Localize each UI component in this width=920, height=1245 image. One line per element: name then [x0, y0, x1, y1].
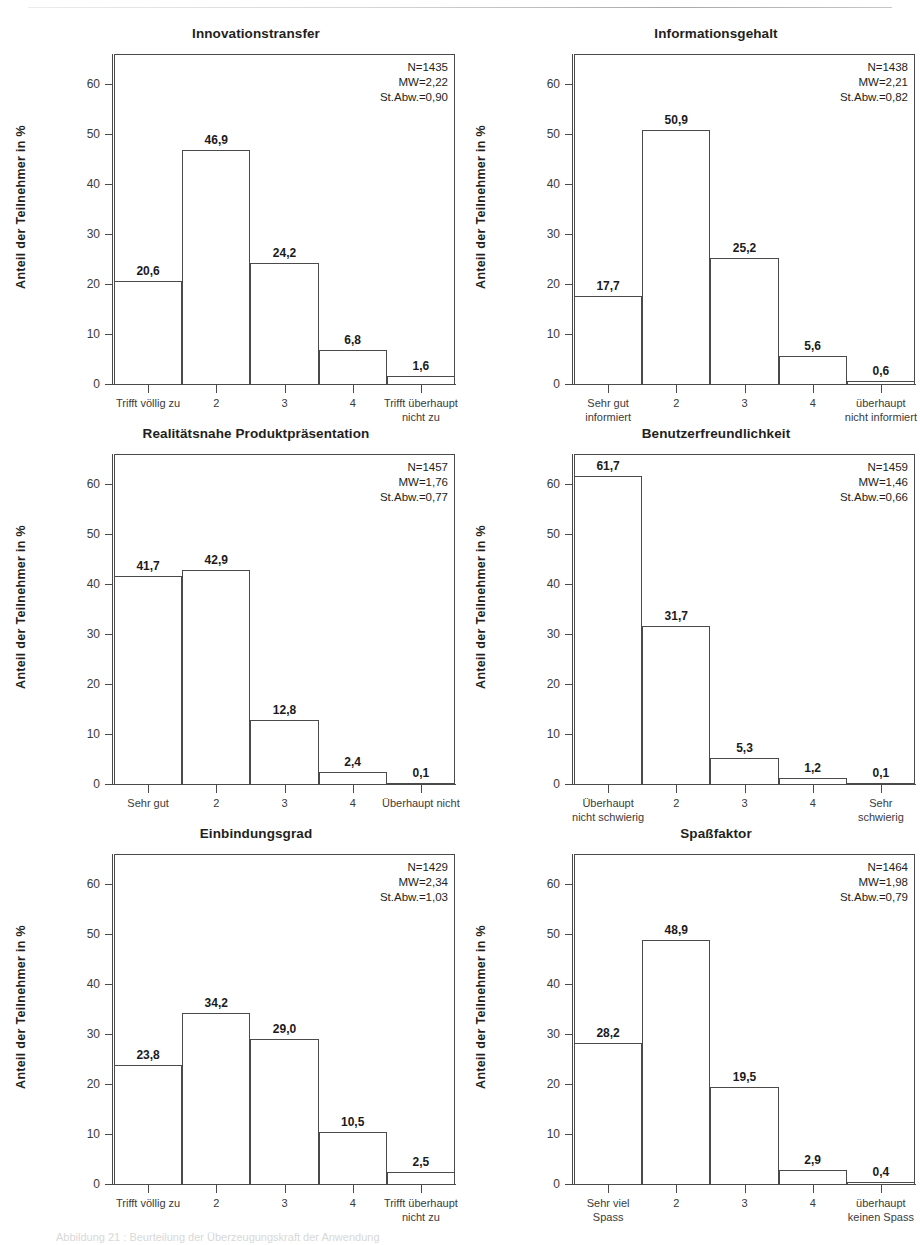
x-axis-tick: [353, 385, 354, 393]
y-axis-tick-label: 30: [526, 1027, 560, 1041]
y-axis-tick: [565, 634, 573, 635]
y-axis-tick: [105, 84, 113, 85]
bar-value-label: 1,2: [779, 761, 847, 775]
x-axis-category-line: Trifft überhaupt: [371, 1197, 471, 1211]
y-axis-tick-label: 40: [66, 177, 100, 191]
x-axis-category-line: Sehr: [831, 797, 920, 811]
bar: [182, 570, 250, 785]
x-axis-ticks: [114, 1185, 455, 1194]
y-axis-tick: [565, 484, 573, 485]
x-axis-category-line: nicht zu: [371, 1211, 471, 1225]
bar-value-label: 23,8: [114, 1048, 182, 1062]
bar: [574, 1043, 642, 1184]
bar: [847, 1182, 915, 1184]
bar: [387, 783, 455, 784]
y-axis-tick: [105, 634, 113, 635]
bar: [319, 1132, 387, 1185]
x-axis-category-line: Überhaupt nicht: [371, 797, 471, 811]
chart-title: Benutzerfreundlichkeit: [460, 426, 920, 441]
y-axis-tick-label: 60: [526, 77, 560, 91]
x-axis-tick: [353, 1185, 354, 1193]
bar: [250, 1039, 318, 1184]
bar: [847, 381, 915, 384]
y-axis-tick: [105, 534, 113, 535]
x-axis-tick: [745, 1185, 746, 1193]
bar-value-label: 2,4: [319, 755, 387, 769]
bar: [710, 258, 778, 384]
y-axis-tick: [565, 284, 573, 285]
x-axis-category-line: Spass: [558, 1211, 658, 1225]
bar-value-label: 5,6: [779, 339, 847, 353]
bar-value-label: 28,2: [574, 1026, 642, 1040]
x-axis-tick: [676, 1185, 677, 1193]
y-axis-tick-label: 60: [526, 477, 560, 491]
y-axis-tick: [565, 884, 573, 885]
chart-grid: InnovationstransferAnteil der Teilnehmer…: [0, 22, 920, 1222]
x-axis-tick: [813, 1185, 814, 1193]
x-axis-tick: [676, 785, 677, 793]
y-axis-tick: [105, 234, 113, 235]
bar: [319, 350, 387, 384]
bar-value-label: 50,9: [642, 113, 710, 127]
bar-value-label: 6,8: [319, 333, 387, 347]
bar-value-label: 2,5: [387, 1155, 455, 1169]
x-axis-ticks: [114, 785, 455, 794]
bar: [574, 476, 642, 785]
x-axis-category-label: überhauptnicht informiert: [831, 397, 920, 425]
y-axis-tick-label: 20: [66, 677, 100, 691]
bar: [250, 263, 318, 384]
y-axis-tick: [105, 1034, 113, 1035]
y-axis-tick-label: 50: [66, 527, 100, 541]
bar-series: 41,742,912,82,40,1: [114, 454, 455, 784]
x-axis-tick: [148, 1185, 149, 1193]
y-axis-tick: [565, 1034, 573, 1035]
x-axis-tick: [421, 1185, 422, 1193]
y-axis-tick-label: 10: [66, 727, 100, 741]
y-axis-tick: [105, 284, 113, 285]
y-axis-tick: [565, 584, 573, 585]
x-axis-tick: [216, 785, 217, 793]
bar-value-label: 31,7: [642, 609, 710, 623]
bar-value-label: 0,6: [847, 364, 915, 378]
x-axis-category-line: keinen Spass: [831, 1211, 920, 1225]
x-axis-tick: [676, 385, 677, 393]
bar-value-label: 2,9: [779, 1153, 847, 1167]
y-axis-tick-label: 10: [526, 327, 560, 341]
chart-title: Einbindungsgrad: [0, 826, 460, 841]
x-axis-category-label: Überhaupt nicht: [371, 797, 471, 811]
x-axis-category-line: überhaupt: [831, 1197, 920, 1211]
y-axis-label: Anteil der Teilnehmer in %: [474, 482, 492, 732]
bar-value-label: 19,5: [710, 1070, 778, 1084]
y-axis-tick: [565, 734, 573, 735]
y-axis-tick: [565, 234, 573, 235]
y-axis-tick-label: 10: [66, 1127, 100, 1141]
bar-value-label: 48,9: [642, 923, 710, 937]
y-axis-label: Anteil der Teilnehmer in %: [14, 482, 32, 732]
y-axis-tick-label: 20: [66, 1077, 100, 1091]
bar-value-label: 42,9: [182, 553, 250, 567]
bar: [250, 720, 318, 784]
x-axis-tick: [608, 785, 609, 793]
x-axis-tick: [813, 385, 814, 393]
y-axis-tick-label: 20: [526, 277, 560, 291]
x-axis-tick: [881, 1185, 882, 1193]
y-axis-label: Anteil der Teilnehmer in %: [474, 82, 492, 332]
y-axis-tick-label: 10: [526, 727, 560, 741]
y-axis-tick-label: 0: [66, 377, 100, 391]
bar: [642, 626, 710, 785]
y-axis-line: [112, 854, 113, 1185]
bar-value-label: 61,7: [574, 459, 642, 473]
x-axis-tick: [285, 385, 286, 393]
y-axis-tick-label: 10: [526, 1127, 560, 1141]
bar: [319, 772, 387, 784]
y-axis-tick-label: 50: [526, 527, 560, 541]
bar-value-label: 0,1: [387, 766, 455, 780]
y-axis-tick: [105, 184, 113, 185]
y-axis-tick-label: 50: [526, 927, 560, 941]
y-axis-tick-label: 60: [526, 877, 560, 891]
y-axis-line: [572, 854, 573, 1185]
y-axis-tick-label: 30: [66, 227, 100, 241]
x-axis-tick: [216, 385, 217, 393]
bar-series: 17,750,925,25,60,6: [574, 54, 915, 384]
y-axis-tick: [565, 934, 573, 935]
